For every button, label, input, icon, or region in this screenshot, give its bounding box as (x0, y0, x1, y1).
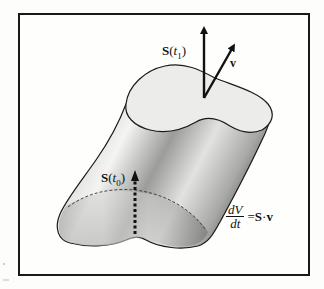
paren-close: ) (182, 43, 186, 58)
page-margin-marks (2, 262, 10, 284)
paren-close: ) (121, 170, 125, 185)
formula-v-vector: v (266, 209, 273, 225)
label-s-t0: S(t0) (101, 170, 125, 188)
fraction-dv-dt: dV dt (226, 203, 244, 230)
fraction-numerator: dV (226, 203, 244, 217)
volume-rate-formula: dV dt = S · v (226, 203, 273, 230)
fraction-denominator: dt (230, 217, 240, 230)
label-v: v (230, 56, 236, 71)
equals-sign: = (247, 209, 254, 225)
formula-s-vector: S (255, 209, 262, 225)
label-s-t1: S(t1) (162, 43, 186, 61)
